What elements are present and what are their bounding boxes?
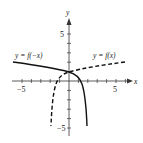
tick-x-neg5: −5 [17,85,26,94]
tick-x-5: 5 [113,85,117,94]
curve-f-negx [13,62,87,126]
x-axis [12,79,133,84]
tick-y-neg5: −5 [57,124,66,133]
tick-y-5: 5 [60,30,64,39]
y-arrow-icon [67,18,72,25]
graph: −5 5 5 −5 x y y = f(−x) y = f(x) [0,0,143,143]
x-arrow-icon [127,79,133,84]
y-axis-label: y [65,8,70,17]
label-f-x: y = f(x) [92,51,116,60]
curve-fx [51,62,125,126]
x-axis-label: x [133,77,138,86]
label-f-negx: y = f(−x) [14,51,43,60]
